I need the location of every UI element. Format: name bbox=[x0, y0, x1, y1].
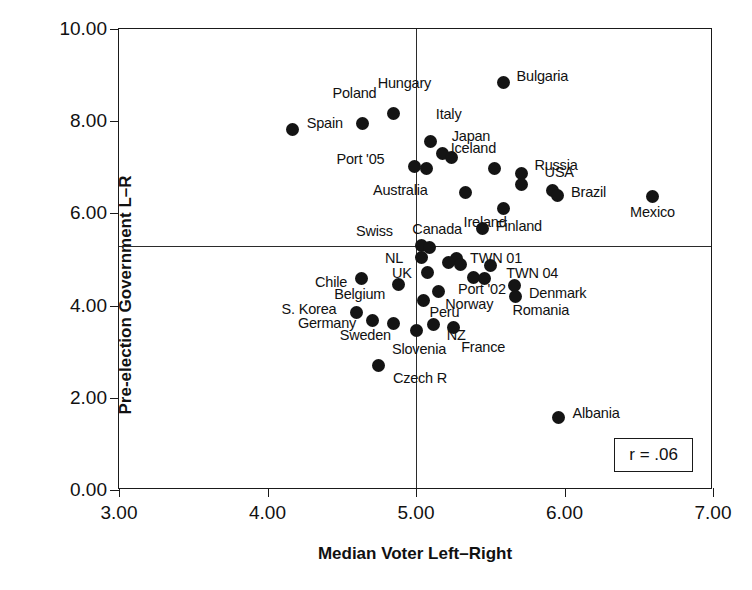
data-point-label: Mexico bbox=[630, 204, 675, 220]
data-point bbox=[421, 266, 434, 279]
data-point-label: Bulgaria bbox=[517, 68, 569, 84]
data-point-label: Iceland bbox=[451, 140, 496, 156]
x-axis-tick-label: 4.00 bbox=[249, 502, 286, 524]
data-point-label: Canada bbox=[412, 221, 462, 237]
data-point bbox=[372, 359, 385, 372]
x-axis-tick-label: 6.00 bbox=[546, 502, 583, 524]
data-point-label: Finland bbox=[496, 218, 542, 234]
data-point-label: USA bbox=[545, 164, 574, 180]
data-point-label: Albania bbox=[573, 405, 620, 421]
data-point bbox=[476, 222, 489, 235]
data-point bbox=[552, 411, 565, 424]
correlation-annotation: r = .06 bbox=[614, 438, 693, 472]
data-point bbox=[432, 285, 445, 298]
data-point-label: Sweden bbox=[340, 327, 391, 343]
y-axis-tick-label: 10.00 bbox=[59, 18, 107, 40]
y-axis-tick-label: 6.00 bbox=[70, 202, 107, 224]
data-point-label: Denmark bbox=[529, 285, 586, 301]
data-point bbox=[392, 278, 405, 291]
data-point bbox=[286, 123, 299, 136]
y-axis-tick bbox=[110, 213, 119, 214]
data-point bbox=[509, 290, 522, 303]
data-point-label: Italy bbox=[436, 106, 462, 122]
data-point-label: Brazil bbox=[571, 184, 606, 200]
data-point bbox=[415, 251, 428, 264]
data-point bbox=[408, 160, 421, 173]
data-point-label: Slovenia bbox=[392, 341, 446, 357]
data-point-label: Poland bbox=[333, 85, 377, 101]
x-axis-tick bbox=[713, 488, 714, 497]
x-axis-tick-label: 7.00 bbox=[695, 502, 732, 524]
y-axis-tick bbox=[110, 121, 119, 122]
data-point bbox=[447, 321, 460, 334]
data-point bbox=[488, 162, 501, 175]
data-point bbox=[417, 294, 430, 307]
data-point bbox=[459, 186, 472, 199]
y-axis-tick-label: 8.00 bbox=[70, 110, 107, 132]
y-axis-tick-label: 2.00 bbox=[70, 387, 107, 409]
data-point bbox=[356, 117, 369, 130]
data-point bbox=[484, 259, 497, 272]
data-point bbox=[497, 76, 510, 89]
data-point bbox=[424, 135, 437, 148]
data-point-label: France bbox=[461, 339, 505, 355]
x-axis-tick-label: 3.00 bbox=[101, 502, 138, 524]
x-axis-tick bbox=[416, 488, 417, 497]
data-point bbox=[420, 162, 433, 175]
data-point-label: NL bbox=[385, 250, 403, 266]
data-point-label: Belgium bbox=[334, 286, 385, 302]
y-axis-tick bbox=[110, 490, 119, 491]
data-point bbox=[646, 190, 659, 203]
data-point-label: Port '05 bbox=[337, 151, 385, 167]
x-axis-tick bbox=[119, 488, 120, 497]
y-axis-tick-label: 4.00 bbox=[70, 295, 107, 317]
data-point bbox=[355, 272, 368, 285]
data-point bbox=[387, 107, 400, 120]
data-point-label: Hungary bbox=[378, 75, 431, 91]
scatter-plot-figure: Pre-election Government L–R Median Voter… bbox=[0, 0, 752, 590]
x-axis-tick bbox=[268, 488, 269, 497]
data-point bbox=[427, 318, 440, 331]
x-axis-title: Median Voter Left–Right bbox=[118, 544, 712, 564]
x-axis-tick-label: 5.00 bbox=[398, 502, 435, 524]
data-point bbox=[410, 324, 423, 337]
data-point bbox=[454, 258, 467, 271]
y-axis-tick bbox=[110, 29, 119, 30]
y-axis-tick bbox=[110, 398, 119, 399]
y-axis-tick-label: 0.00 bbox=[70, 479, 107, 501]
data-point bbox=[515, 178, 528, 191]
data-point-label: Swiss bbox=[356, 223, 393, 239]
data-point bbox=[551, 189, 564, 202]
data-point-label: Czech R bbox=[393, 370, 447, 386]
data-point-label: Spain bbox=[307, 115, 343, 131]
data-point-label: Australia bbox=[373, 182, 428, 198]
y-axis-tick bbox=[110, 306, 119, 307]
data-point bbox=[366, 314, 379, 327]
plot-area: 0.002.004.006.008.0010.00 3.004.005.006.… bbox=[118, 28, 712, 489]
x-axis-tick bbox=[565, 488, 566, 497]
data-point-label: Romania bbox=[512, 302, 569, 318]
